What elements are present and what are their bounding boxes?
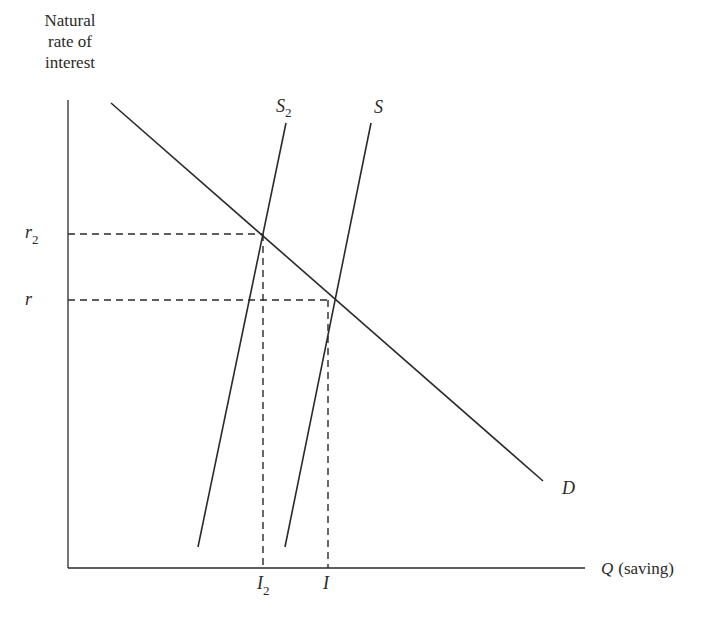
s-label: S bbox=[374, 97, 383, 117]
i-label: I bbox=[322, 573, 330, 593]
r-label: r bbox=[25, 289, 33, 309]
i2-label: I2 bbox=[256, 573, 270, 598]
s2-label: S2 bbox=[276, 96, 292, 120]
saving-investment-diagram: S2 S D r2 r I2 I Q(saving) bbox=[0, 0, 720, 623]
x-axis-label: Q(saving) bbox=[601, 559, 674, 578]
supply-curve-s2 bbox=[198, 123, 286, 547]
r2-label: r2 bbox=[25, 222, 39, 247]
d-label: D bbox=[561, 478, 575, 498]
demand-curve-d bbox=[111, 103, 543, 481]
